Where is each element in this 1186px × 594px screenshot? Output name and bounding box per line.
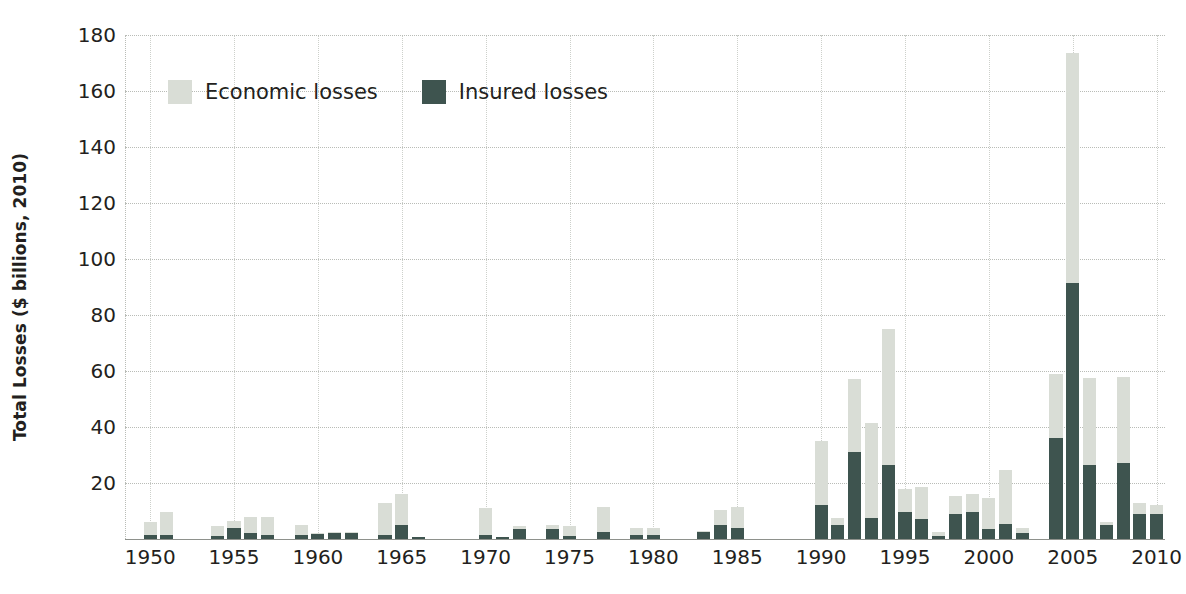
bar-2010 [1150, 505, 1163, 539]
bar-2007 [1100, 522, 1113, 539]
bar-segment-insured-1965 [395, 525, 408, 539]
legend-label-economic: Economic losses [205, 81, 378, 103]
y-tick-label-100: 100 [72, 249, 116, 269]
x-tick-label-2005: 2005 [1038, 546, 1108, 568]
x-tick-label-1975: 1975 [535, 546, 605, 568]
bar-segment-insured-1999 [966, 512, 979, 539]
y-tick-label-120: 120 [72, 193, 116, 213]
bar-2004 [1049, 374, 1062, 539]
chart-legend: Economic losses Insured losses [168, 80, 608, 104]
bar-1995 [898, 489, 911, 539]
bar-1997 [932, 532, 945, 539]
x-tick-label-1995: 1995 [870, 546, 940, 568]
legend-swatch-economic-icon [168, 80, 192, 104]
bar-segment-insured-2006 [1083, 465, 1096, 539]
bar-1977 [597, 507, 610, 539]
legend-label-insured: Insured losses [459, 81, 608, 103]
bar-1951 [160, 512, 173, 539]
bar-1984 [714, 510, 727, 539]
x-tick-label-1965: 1965 [367, 546, 437, 568]
bar-1954 [211, 526, 224, 539]
bar-segment-insured-2001 [999, 524, 1012, 539]
bar-1956 [244, 517, 257, 539]
y-tick-label-140: 140 [72, 137, 116, 157]
bar-segment-insured-1994 [882, 465, 895, 539]
bar-segment-insured-1983 [697, 532, 710, 539]
bar-segment-insured-1991 [831, 525, 844, 539]
legend-item-economic-losses: Economic losses [168, 80, 378, 104]
bar-2005 [1066, 53, 1079, 539]
bar-1959 [295, 525, 308, 539]
x-tick-label-1985: 1985 [702, 546, 772, 568]
bar-segment-insured-1955 [227, 528, 240, 539]
bar-1998 [949, 496, 962, 539]
x-axis-line [125, 539, 1165, 540]
y-tick-label-180: 180 [72, 25, 116, 45]
bar-segment-insured-2009 [1133, 514, 1146, 539]
y-tick-label-20: 20 [72, 473, 116, 493]
bar-1965 [395, 494, 408, 539]
y-tick-label-80: 80 [72, 305, 116, 325]
bar-2009 [1133, 503, 1146, 539]
bar-segment-insured-1985 [731, 528, 744, 539]
legend-item-insured-losses: Insured losses [422, 80, 608, 104]
bar-2000 [982, 498, 995, 539]
y-tick-label-40: 40 [72, 417, 116, 437]
bar-1955 [227, 521, 240, 539]
plot-area [125, 35, 1165, 539]
bar-segment-insured-1998 [949, 514, 962, 539]
gridline-60 [125, 371, 1165, 372]
bar-1950 [144, 522, 157, 539]
bar-segment-insured-2004 [1049, 438, 1062, 539]
gridline-180 [125, 35, 1165, 36]
gridline-140 [125, 147, 1165, 148]
gridline-100 [125, 259, 1165, 260]
gridline-40 [125, 427, 1165, 428]
bar-segment-insured-1977 [597, 532, 610, 539]
gridline-80 [125, 315, 1165, 316]
bar-segment-insured-2005 [1066, 283, 1079, 539]
bar-1993 [865, 423, 878, 539]
x-tick-label-2010: 2010 [1122, 546, 1186, 568]
bar-2002 [1016, 528, 1029, 539]
y-tick-label-160: 160 [72, 81, 116, 101]
bar-1992 [848, 379, 861, 539]
bar-segment-insured-2000 [982, 529, 995, 539]
bar-2006 [1083, 378, 1096, 539]
x-tick-label-1960: 1960 [283, 546, 353, 568]
bar-1970 [479, 508, 492, 539]
bar-segment-insured-1996 [915, 519, 928, 539]
bar-1980 [647, 528, 660, 539]
x-tick-label-1955: 1955 [199, 546, 269, 568]
bar-segment-economic-1964 [378, 503, 391, 539]
bar-1990 [815, 441, 828, 539]
legend-swatch-insured-icon [422, 80, 446, 104]
bar-1974 [546, 525, 559, 539]
bar-1983 [697, 531, 710, 539]
bar-1985 [731, 507, 744, 539]
bar-1957 [261, 517, 274, 539]
bar-1999 [966, 494, 979, 539]
bar-1991 [831, 518, 844, 539]
bar-1996 [915, 487, 928, 539]
bar-1979 [630, 528, 643, 539]
bar-1961 [328, 532, 341, 539]
bar-segment-insured-1972 [513, 529, 526, 539]
bar-1964 [378, 503, 391, 539]
x-tick-label-2000: 2000 [954, 546, 1024, 568]
bar-segment-insured-2007 [1100, 525, 1113, 539]
bar-1994 [882, 329, 895, 539]
bar-segment-insured-2008 [1117, 463, 1130, 539]
bar-segment-insured-1974 [546, 529, 559, 539]
bar-segment-insured-1993 [865, 518, 878, 539]
bar-2001 [999, 470, 1012, 539]
bar-segment-insured-1992 [848, 452, 861, 539]
y-tick-label-60: 60 [72, 361, 116, 381]
bar-segment-insured-1995 [898, 512, 911, 539]
bar-1962 [345, 532, 358, 539]
gridline-120 [125, 203, 1165, 204]
bar-segment-insured-1990 [815, 505, 828, 539]
bar-1975 [563, 526, 576, 539]
x-tick-label-1950: 1950 [115, 546, 185, 568]
